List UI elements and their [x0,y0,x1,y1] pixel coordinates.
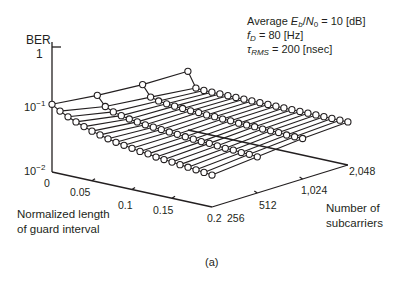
data-point-marker [289,107,295,113]
data-point-marker [228,118,234,124]
data-point-marker [292,134,298,140]
data-point-marker [102,103,108,109]
data-point-marker [166,129,172,135]
data-point-marker [337,117,343,123]
data-point-marker [305,110,311,116]
x-tick-mark [172,196,175,198]
z-tick-base: 10 [24,165,36,177]
data-point-marker [204,112,210,118]
data-point-marker [142,122,148,128]
x-tick-mark [92,179,95,181]
x-tick-0.2: 0.2 [207,212,222,225]
data-point-marker [57,108,63,114]
data-point-marker [193,167,199,173]
data-point-marker [73,119,79,125]
data-point-marker [265,101,271,107]
data-point-marker [222,145,228,151]
y-axis-title: Number of subcarriers [326,201,383,231]
y-tick-mark [300,177,303,179]
data-point-marker [260,126,266,132]
data-point-marker [201,87,207,93]
data-point-marker [329,115,335,121]
data-point-marker [236,120,242,126]
data-point-marker [201,169,207,175]
data-point-marker [94,92,100,98]
parameter-annotation: Average Eb/N0 = 10 [dB] fD = 80 [Hz] τRM… [247,14,366,56]
data-point-marker [254,154,260,160]
x-tick-0.05: 0.05 [70,186,90,199]
data-point-marker [188,108,194,114]
y-tick-1024: 1,024 [301,184,327,197]
data-point-marker [113,139,119,145]
data-point-marker [105,136,111,142]
x-tick-mark [132,188,135,190]
data-point-marker [241,96,247,102]
data-point-marker [238,149,244,155]
data-point-marker [193,85,199,91]
data-point-marker [209,172,215,178]
z-tick-0.01: 10−2 [24,165,45,178]
data-point-marker [121,142,127,148]
data-point-marker [206,140,212,146]
data-point-marker [118,113,124,119]
data-point-marker [209,89,215,95]
y-tick-512: 512 [259,199,277,212]
data-point-marker [169,159,175,165]
data-point-marker [182,134,188,140]
data-point-marker [246,151,252,157]
z-tick-0.1: 10−1 [24,101,45,114]
z-tick-1: 1 [36,48,43,61]
data-point-marker [126,116,132,122]
data-point-marker [180,105,186,111]
z-tick-exp: −1 [36,99,45,108]
data-point-marker [81,123,87,129]
data-point-marker [110,109,116,115]
x-tick-0.15: 0.15 [153,204,173,217]
x-axis-title-line1: Normalized length [17,207,110,222]
data-point-marker [214,143,220,149]
y-axis-title-line1: Number of [326,201,383,216]
data-point-marker [212,114,218,120]
data-point-marker [89,128,95,134]
data-point-marker [156,98,162,104]
data-point-marker [140,82,146,88]
x-axis-title: Normalized length of guard interval [17,207,110,237]
data-point-marker [220,116,226,122]
y-tick-mark [254,191,257,193]
data-point-marker [174,131,180,137]
data-point-marker [198,139,204,145]
data-point-marker [190,136,196,142]
data-point-marker [177,162,183,168]
data-point-marker [252,124,258,130]
data-point-marker [281,105,287,111]
y-axis-title-line2: subcarriers [326,216,383,231]
data-point-marker [225,93,231,99]
data-point-marker [244,122,250,128]
data-point-marker [313,112,319,118]
z-tick-base: 10 [24,101,36,113]
data-point-marker [284,132,290,138]
data-point-marker [134,119,140,125]
data-point-marker [276,129,282,135]
z-tick-exp: −2 [36,163,45,172]
data-point-marker [217,91,223,97]
data-point-marker [150,124,156,130]
data-point-marker [233,94,239,100]
param-ebn0: Average Eb/N0 = 10 [dB] [247,14,366,28]
param-doppler: fD = 80 [Hz] [247,28,366,42]
figure-caption: (a) [205,256,218,269]
data-point-marker [297,108,303,114]
x-tick-0: 0 [44,177,50,190]
data-point-marker [249,98,255,104]
x-tick-0.1: 0.1 [118,199,133,212]
data-point-marker [300,135,306,141]
x-axis-title-line2: of guard interval [17,222,110,237]
data-point-marker [153,154,159,160]
data-point-marker [129,145,135,151]
data-point-marker [196,109,202,115]
data-point-marker [268,128,274,134]
data-point-marker [321,114,327,120]
data-point-marker [185,164,191,170]
data-point-marker [145,151,151,157]
y-tick-2048: 2,048 [349,165,375,178]
